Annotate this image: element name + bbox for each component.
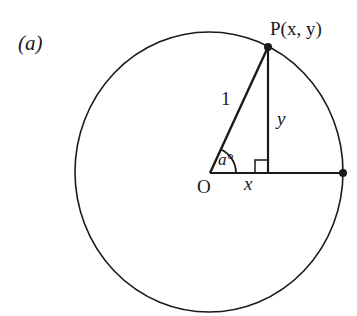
adjacent-side-label: x: [244, 174, 252, 193]
point-P-dot: [264, 43, 272, 51]
unit-circle-diagram: [0, 0, 357, 316]
origin-label: O: [197, 177, 211, 196]
radius-label: 1: [221, 89, 231, 108]
right-intersection-dot: [339, 169, 347, 177]
right-angle-marker: [255, 160, 268, 173]
point-P-text: P(x, y): [270, 18, 322, 39]
opposite-side-label: y: [277, 109, 285, 128]
point-P-label: P(x, y): [270, 19, 322, 38]
part-label: (a): [18, 33, 43, 54]
angle-label: a°: [218, 151, 233, 168]
